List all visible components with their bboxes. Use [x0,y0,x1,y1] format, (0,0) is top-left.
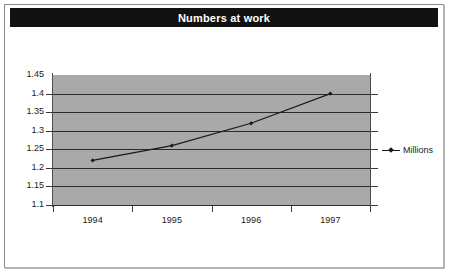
diamond-marker-icon [382,146,400,155]
data-series-layer [10,32,438,262]
chart-title: Numbers at work [178,12,270,24]
series-markers-millions [91,91,333,162]
chart-canvas: 1.451.41.351.31.251.21.151.1 19941995199… [10,32,438,262]
series-line-millions [93,94,331,161]
chart-title-bar: Numbers at work [10,8,438,27]
legend-label-millions: Millions [403,146,433,155]
data-point-marker [91,158,95,162]
data-point-marker [328,91,332,95]
data-point-marker [170,143,174,147]
data-point-marker [249,121,253,125]
chart-screenshot: Numbers at work 1.451.41.351.31.251.21.1… [0,0,450,275]
chart-legend: Millions [382,146,433,155]
